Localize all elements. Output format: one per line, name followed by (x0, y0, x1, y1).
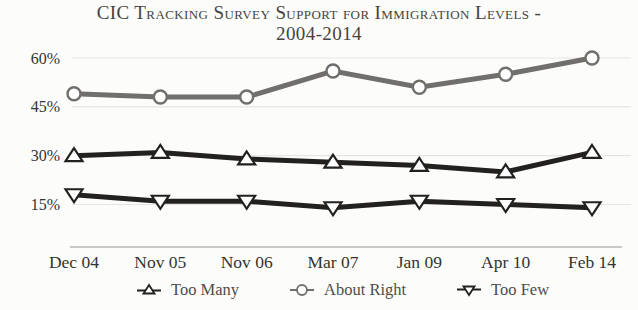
y-axis-tick-label: 60% (31, 50, 60, 67)
legend-item-too-many: Too Many (136, 280, 239, 300)
line-chart-plot: 60%45%30%15%Dec 04Nov 05Nov 06Mar 07Jan … (0, 40, 638, 280)
y-axis-tick-label: 45% (31, 98, 60, 115)
x-axis-tick-label: Apr 10 (481, 252, 530, 272)
marker-circle (154, 91, 167, 104)
triangle-down-marker-icon (456, 282, 482, 298)
triangle-up-marker-icon (136, 282, 162, 298)
y-axis-tick-label: 30% (31, 147, 60, 164)
x-axis-tick-label: Dec 04 (49, 252, 99, 272)
marker-circle (240, 91, 253, 104)
circle-marker-icon (289, 282, 315, 298)
y-axis-tick-label: 15% (31, 196, 60, 213)
chart-legend: Too Many About Right Too Few (136, 280, 549, 300)
legend-item-too-few: Too Few (456, 280, 549, 300)
marker-circle (327, 65, 340, 78)
x-axis-tick-label: Nov 05 (134, 252, 186, 272)
chart-page: CIC Tracking Survey Support for Immigrat… (0, 0, 638, 310)
marker-circle (586, 52, 599, 65)
x-axis-tick-label: Jan 09 (397, 252, 442, 272)
x-axis-tick-label: Nov 06 (221, 252, 273, 272)
marker-circle (413, 81, 426, 94)
x-axis-tick-label: Mar 07 (307, 252, 358, 272)
legend-label-too-many: Too Many (171, 280, 239, 300)
legend-label-about-right: About Right (324, 280, 406, 300)
chart-title: CIC Tracking Survey Support for Immigrat… (0, 3, 638, 45)
legend-item-about-right: About Right (289, 280, 406, 300)
legend-label-too-few: Too Few (491, 280, 549, 300)
marker-circle (68, 87, 81, 100)
chart-title-line-1: CIC Tracking Survey Support for Immigrat… (0, 3, 638, 24)
x-axis-tick-label: Feb 14 (568, 252, 616, 272)
marker-circle (499, 68, 512, 81)
